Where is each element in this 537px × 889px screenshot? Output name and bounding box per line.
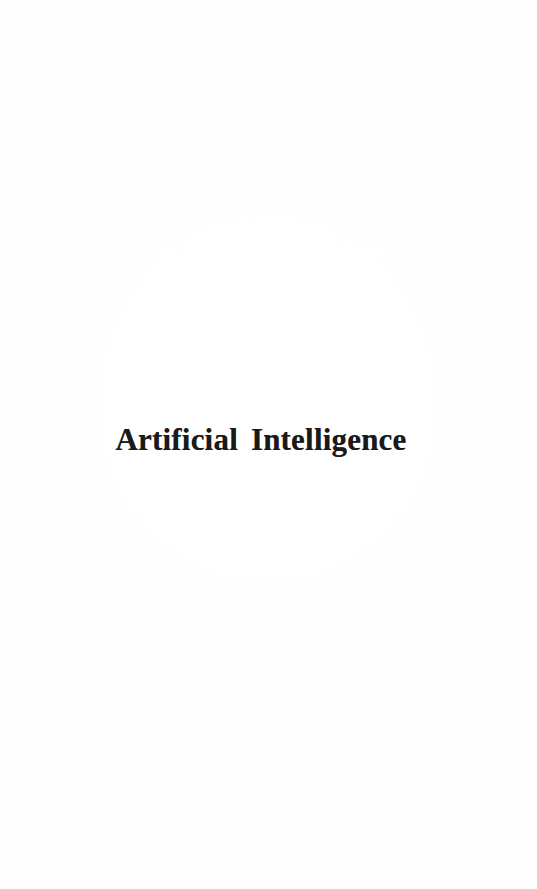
title-block: Artificial Intelligence — [0, 424, 537, 457]
page-title: Artificial Intelligence — [115, 424, 406, 457]
scanned-page: Artificial Intelligence — [0, 0, 537, 889]
